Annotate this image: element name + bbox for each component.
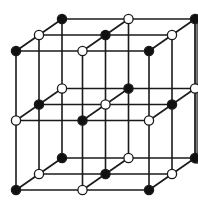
filled-atom-icon bbox=[190, 153, 198, 162]
lattice-diagram bbox=[0, 0, 198, 206]
filled-atom-icon bbox=[11, 185, 20, 194]
open-atom-icon bbox=[78, 185, 87, 194]
open-atom-icon bbox=[144, 116, 153, 125]
filled-atom-icon bbox=[144, 46, 153, 55]
filled-atom-icon bbox=[57, 14, 66, 23]
open-atom-icon bbox=[167, 30, 176, 39]
filled-atom-icon bbox=[11, 46, 20, 55]
filled-atom-icon bbox=[78, 116, 87, 125]
open-atom-icon bbox=[190, 84, 198, 93]
open-atom-icon bbox=[11, 116, 20, 125]
filled-atom-icon bbox=[101, 169, 110, 178]
filled-atom-icon bbox=[190, 14, 198, 23]
open-atom-icon bbox=[167, 169, 176, 178]
open-atom-icon bbox=[124, 14, 133, 23]
filled-atom-icon bbox=[167, 100, 176, 109]
open-atom-icon bbox=[78, 46, 87, 55]
open-atom-icon bbox=[34, 30, 43, 39]
filled-atom-icon bbox=[57, 153, 66, 162]
filled-atom-icon bbox=[101, 30, 110, 39]
filled-atom-icon bbox=[34, 100, 43, 109]
open-atom-icon bbox=[101, 100, 110, 109]
filled-atom-icon bbox=[144, 185, 153, 194]
filled-atom-icon bbox=[124, 84, 133, 93]
open-atom-icon bbox=[57, 84, 66, 93]
open-atom-icon bbox=[34, 169, 43, 178]
open-atom-icon bbox=[124, 153, 133, 162]
